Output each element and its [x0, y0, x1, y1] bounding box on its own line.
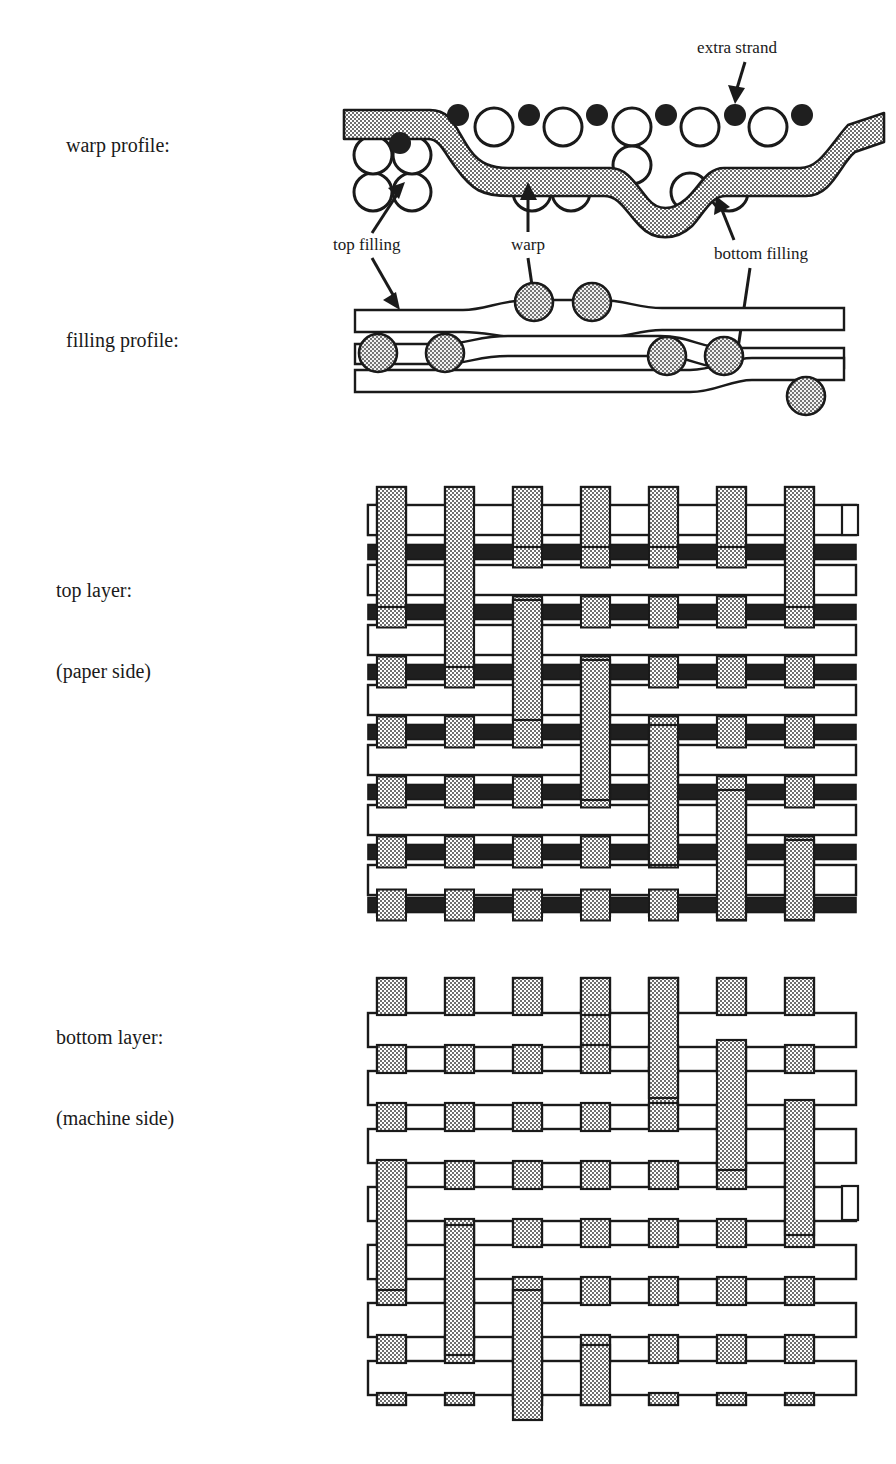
top-layer-warp-long-float — [785, 840, 814, 920]
bottom-layer-warp-long-float — [445, 1225, 474, 1355]
top-layer-warp-knuckle — [513, 777, 542, 808]
top-layer-warp-long-float — [649, 487, 678, 547]
bottom-layer-warp-knuckle — [445, 1103, 474, 1131]
bottom-layer-warp-knuckle — [513, 1219, 542, 1247]
top-layer-warp-knuckle — [445, 837, 474, 868]
bottom-layer-filling-pick — [368, 1245, 856, 1279]
bottom-layer-warp-stub — [445, 978, 474, 1015]
top-layer-warp-knuckle — [785, 777, 814, 808]
bottom-layer-warp-knuckle — [513, 1161, 542, 1189]
top-layer-warp-knuckle — [581, 597, 610, 628]
bottom-layer-warp-stub — [717, 1393, 746, 1405]
top-layer-warp-long-float — [581, 660, 610, 800]
top-layer-warp-knuckle — [581, 837, 610, 868]
top-layer-warp-knuckle — [377, 717, 406, 748]
bottom-layer-filling-pick — [368, 1187, 856, 1221]
top-layer-warp-knuckle — [717, 597, 746, 628]
bottom-layer-warp-knuckle — [785, 1277, 814, 1305]
callout-bottom-filling-label: bottom filling — [714, 244, 808, 263]
bottom-layer-warp-knuckle — [581, 1161, 610, 1189]
top-layer-warp-knuckle — [649, 657, 678, 688]
top-layer-warp-knuckle — [513, 837, 542, 868]
top-layer-extra-strand-pick — [368, 845, 856, 860]
bottom-layer-warp-knuckle — [445, 1161, 474, 1189]
top-layer-warp-long-float — [785, 487, 814, 607]
panel-top-layer — [368, 487, 858, 921]
top-layer-warp-long-float — [513, 487, 542, 547]
top-layer-warp-knuckle — [785, 657, 814, 688]
top-layer-warp-long-float — [377, 487, 406, 607]
bottom-layer-warp-knuckle — [717, 1335, 746, 1363]
top-layer-warp-knuckle — [717, 657, 746, 688]
top-layer-filling-pick — [368, 505, 856, 535]
top-layer-warp-knuckle — [581, 890, 610, 921]
top-layer-warp-knuckle — [377, 777, 406, 808]
top-layer-warp-knuckle — [377, 890, 406, 921]
top-layer-warp-knuckle — [513, 717, 542, 748]
top-layer-warp-long-float — [581, 487, 610, 547]
weave-figure: extra strand top filling warp — [0, 0, 896, 1464]
bottom-layer-warp-stub — [717, 978, 746, 1015]
bottom-layer-warp-stub — [785, 1393, 814, 1405]
top-layer-filling-pick — [368, 805, 856, 835]
bottom-layer-warp-knuckle — [649, 1103, 678, 1131]
bottom-layer-warp-stub — [377, 978, 406, 1015]
top-layer-warp-knuckle — [445, 890, 474, 921]
top-layer-warp-knuckle — [445, 777, 474, 808]
bottom-layer-warp-long-float — [717, 1040, 746, 1170]
bottom-layer-filling-pick — [368, 1129, 856, 1163]
top-layer-warp-knuckle — [649, 890, 678, 921]
top-layer-filling-pick — [368, 625, 856, 655]
bottom-layer-edge-tab — [842, 1186, 858, 1220]
bottom-layer-warp-knuckle — [377, 1045, 406, 1073]
bottom-layer-warp-stub — [649, 1393, 678, 1405]
top-layer-warp-knuckle — [649, 597, 678, 628]
bottom-layer-warp-long-float — [513, 1290, 542, 1420]
bottom-layer-warp-stub — [581, 978, 610, 1015]
bottom-layer-warp-knuckle — [581, 1277, 610, 1305]
top-layer-edge-tab — [842, 505, 858, 535]
bottom-layer-filling-pick — [368, 1303, 856, 1337]
bottom-layer-warp-knuckle — [513, 1103, 542, 1131]
bottom-layer-warp-knuckle — [513, 1045, 542, 1073]
panel-warp-profile: extra strand — [344, 38, 884, 237]
top-layer-warp-knuckle — [377, 657, 406, 688]
top-layer-warp-knuckle — [377, 837, 406, 868]
top-layer-warp-knuckle — [785, 717, 814, 748]
bottom-layer-warp-knuckle — [581, 1045, 610, 1073]
top-layer-filling-pick — [368, 865, 856, 895]
bottom-layer-warp-long-float — [649, 978, 678, 1098]
top-layer-warp-knuckle — [717, 717, 746, 748]
top-layer-extra-strand-pick — [368, 665, 856, 680]
bottom-layer-warp-knuckle — [649, 1335, 678, 1363]
bottom-layer-warp-knuckle — [785, 1045, 814, 1073]
top-layer-warp-long-float — [717, 487, 746, 547]
top-layer-warp-long-float — [513, 600, 542, 720]
top-layer-extra-strands — [368, 545, 856, 913]
top-layer-warp-long-float — [649, 725, 678, 865]
bottom-layer-warp-knuckle — [717, 1277, 746, 1305]
bottom-layer-filling-pick — [368, 1361, 856, 1395]
top-layer-warp-long-float — [445, 487, 474, 667]
top-layer-extra-strand-pick — [368, 725, 856, 740]
bottom-layer-warp-long-float — [377, 1160, 406, 1290]
bottom-layer-warp-knuckle — [785, 1335, 814, 1363]
bottom-layer-warp-knuckle — [377, 1335, 406, 1363]
callout-top-filling-label: top filling — [333, 235, 401, 254]
bottom-layer-warp-knuckle — [581, 1219, 610, 1247]
bottom-layer-warp-long-float — [785, 1100, 814, 1235]
bottom-layer-filling-pick — [368, 1013, 856, 1047]
callout-extra-strand-label: extra strand — [697, 38, 777, 57]
panel-bottom-layer — [368, 978, 858, 1420]
bottom-layer-warp-knuckle — [377, 1103, 406, 1131]
callout-extra-strand-arrow — [728, 62, 745, 104]
callout-warp-label: warp — [511, 235, 545, 254]
bottom-layer-warp-knuckle — [445, 1045, 474, 1073]
bottom-layer-filling-pick — [368, 1071, 856, 1105]
bottom-layer-warp-long-float — [581, 1345, 610, 1405]
top-layer-extra-strand-pick — [368, 898, 856, 913]
top-layer-filling-pick — [368, 685, 856, 715]
top-layer-extra-strand-pick — [368, 605, 856, 620]
bottom-layer-warp-stub — [377, 1393, 406, 1405]
top-layer-filling-pick — [368, 565, 856, 595]
